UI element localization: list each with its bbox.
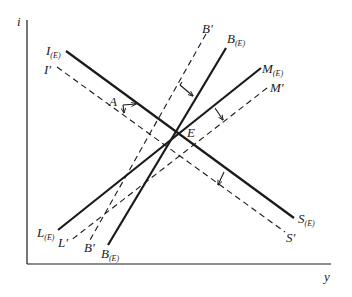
is-end-label: S(E) <box>298 211 315 228</box>
a-arrow-right <box>123 104 136 105</box>
bp-prime-top-label: B′ <box>202 21 213 36</box>
is-shift-arrow <box>218 172 224 185</box>
is-prime-end-label: S′ <box>286 230 296 245</box>
lm-shift-arrow <box>215 108 223 120</box>
is-start-label: I(E) <box>45 43 61 60</box>
x-axis-label: y <box>322 269 330 284</box>
lm-prime-top-label: M′ <box>269 80 284 95</box>
lm-prime-bottom-label: L′ <box>57 235 68 250</box>
point-a-label: A <box>108 94 117 109</box>
equilibrium-e-label: E <box>186 125 195 140</box>
lm-bottom-label: L(E) <box>36 225 55 242</box>
is-prime-curve-dashed: I′ S′ <box>43 62 296 245</box>
bp-shift-arrow <box>180 85 193 96</box>
lm-top-label: M(E) <box>261 61 283 78</box>
is-prime-start-label: I′ <box>43 62 51 77</box>
lm-prime-curve-dashed: M′ L′ <box>57 80 284 250</box>
bp-bottom-label: B(E) <box>101 246 120 263</box>
diagram-canvas: i y I(E) S(E) I′ S′ B(E) B(E) B′ B′ M(E)… <box>0 0 352 297</box>
bp-curve-solid: B(E) B(E) <box>101 31 246 263</box>
economic-diagram: i y I(E) S(E) I′ S′ B(E) B(E) B′ B′ M(E)… <box>0 0 352 297</box>
bp-prime-bottom-label: B′ <box>84 240 95 255</box>
bp-top-label: B(E) <box>227 31 246 48</box>
a-arrow-down <box>123 105 124 113</box>
lm-curve-solid: M(E) L(E) <box>36 61 283 242</box>
y-axis-label: i <box>17 14 21 29</box>
